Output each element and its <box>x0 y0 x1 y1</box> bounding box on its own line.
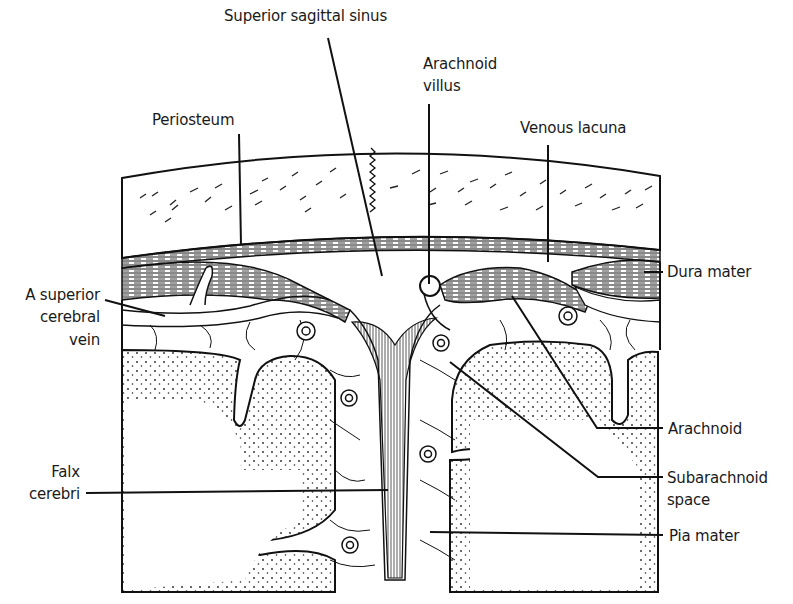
label-arachnoid: Arachnoid <box>668 419 742 439</box>
label-venous-lacuna: Venous lacuna <box>520 118 626 138</box>
label-subarachnoid-space-line2: space <box>667 490 710 510</box>
label-falx-cerebri-line2: cerebri <box>29 484 80 504</box>
right-hemisphere <box>450 342 658 593</box>
label-periosteum: Periosteum <box>152 110 234 130</box>
label-arachnoid-villus-line1: Arachnoid <box>423 54 497 74</box>
left-hemisphere <box>122 350 335 592</box>
label-superior-cerebral-vein-line2: cerebral <box>40 307 100 327</box>
label-subarachnoid-space-line1: Subarachnoid <box>667 468 768 488</box>
label-pia-mater: Pia mater <box>669 526 739 546</box>
label-superior-sagittal-sinus: Superior sagittal sinus <box>224 6 387 26</box>
meninges-diagram <box>0 0 793 604</box>
label-superior-cerebral-vein-line3: vein <box>69 330 100 350</box>
label-falx-cerebri-line1: Falx <box>51 462 80 482</box>
label-dura-mater: Dura mater <box>667 262 751 282</box>
label-superior-cerebral-vein-line1: A superior <box>25 285 100 305</box>
falx-cerebri <box>350 305 440 580</box>
label-arachnoid-villus-line2: villus <box>423 76 461 96</box>
